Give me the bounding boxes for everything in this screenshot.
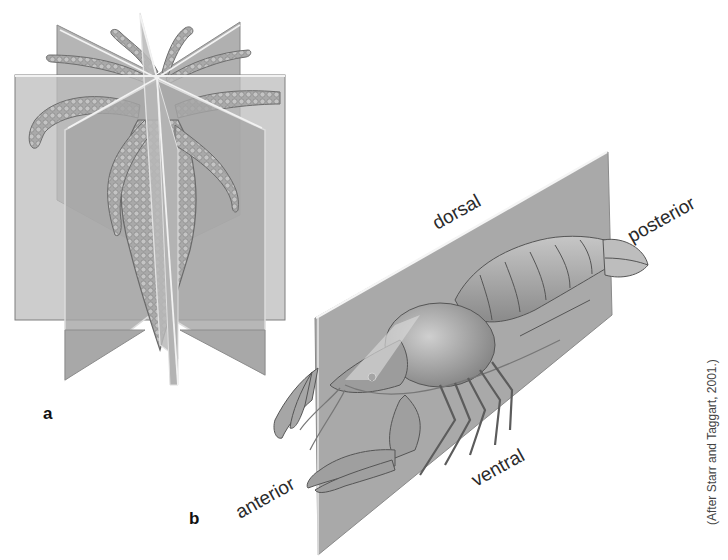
figure-credit: (After Starr and Taggart, 2001.) [705, 359, 719, 525]
label-ventral: ventral [468, 444, 528, 490]
panel-letter-b: b [189, 509, 199, 528]
crayfish-claw-far [274, 368, 318, 438]
plane-wing-right [180, 330, 265, 375]
radial-symmetry-illustration [15, 13, 285, 385]
figure-canvas: dorsal posterior anterior ventral a b (A… [0, 0, 728, 560]
label-posterior: posterior [624, 192, 699, 247]
label-anterior: anterior [232, 473, 299, 523]
plane-wing-left [65, 330, 145, 380]
panel-letter-a: a [43, 404, 53, 423]
